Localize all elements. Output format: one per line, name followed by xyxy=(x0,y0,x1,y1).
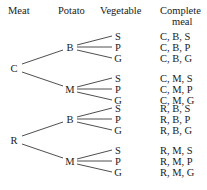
vegetable-node: S xyxy=(115,103,121,114)
column-header: Complete xyxy=(160,5,201,16)
complete-meal-item: R, B, P xyxy=(160,114,190,125)
tree-branch xyxy=(77,92,112,100)
tree-branch xyxy=(77,36,112,45)
complete-meal-item: C, B, S xyxy=(160,31,190,42)
tree-branch xyxy=(77,78,112,87)
potato-node: B xyxy=(66,114,73,125)
tree-branch xyxy=(77,108,112,117)
complete-meal-item: R, B, S xyxy=(160,103,190,114)
complete-meal-item: C, B, P xyxy=(160,42,190,53)
tree-branch xyxy=(22,72,63,86)
complete-meal-item: C, M, S xyxy=(160,73,193,84)
meat-node: C xyxy=(10,63,17,74)
vegetable-node: G xyxy=(114,53,122,64)
vegetable-node: P xyxy=(115,114,121,125)
vegetable-node: S xyxy=(115,31,121,42)
column-header: Potato xyxy=(58,5,85,16)
tree-branch xyxy=(77,150,112,159)
complete-meal-item: R, M, S xyxy=(160,145,193,156)
vegetable-node: G xyxy=(114,167,122,178)
complete-meal-item: R, M, G xyxy=(160,167,194,178)
vegetable-node: S xyxy=(115,145,121,156)
complete-meal-item: R, M, P xyxy=(160,156,193,167)
column-header: Vegetable xyxy=(100,5,141,16)
tree-branch xyxy=(22,50,63,64)
complete-meal-item: R, B, G xyxy=(160,125,192,136)
vegetable-node: S xyxy=(115,73,121,84)
vegetable-node: P xyxy=(115,84,121,95)
meat-node: R xyxy=(10,135,17,146)
potato-node: M xyxy=(65,156,74,167)
potato-node: M xyxy=(65,84,74,95)
tree-branch xyxy=(77,164,112,172)
column-header: meal xyxy=(172,16,192,27)
vegetable-node: G xyxy=(114,125,122,136)
column-header: Meat xyxy=(8,5,30,16)
vegetable-node: P xyxy=(115,42,121,53)
probability-tree-diagram: MeatPotatoVegetableCompletemeal CRBMBMSP… xyxy=(0,0,207,190)
tree-branch xyxy=(22,144,63,158)
tree-branch xyxy=(77,50,112,58)
complete-meal-item: C, B, G xyxy=(160,53,192,64)
potato-node: B xyxy=(66,42,73,53)
tree-branch xyxy=(77,122,112,130)
tree-branch xyxy=(22,122,63,136)
vegetable-node: P xyxy=(115,156,121,167)
complete-meal-item: C, M, P xyxy=(160,84,193,95)
